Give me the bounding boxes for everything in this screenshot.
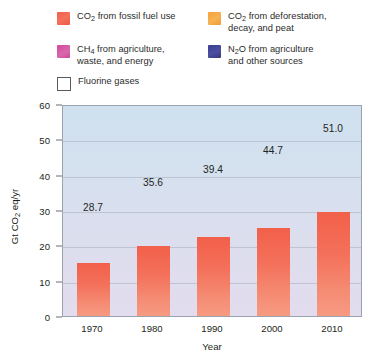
bar-value-label: 44.7 [263, 145, 283, 156]
legend-item-methane: CH4 from agriculture,waste, and energy [57, 44, 165, 67]
chart-legend: CO2 from fossil fuel use CO2 from defore… [0, 0, 379, 96]
x-axis-tick-label: 2000 [261, 323, 282, 334]
bar-value-label: 28.7 [83, 202, 103, 213]
legend-label-nitrous-oxide: N2O from agricultureand other sources [228, 44, 314, 67]
legend-label-fossil-fuel: CO2 from fossil fuel use [77, 11, 176, 23]
y-axis: Gt CO2 eq/yr 0102030405060 [0, 105, 62, 317]
bar-segment-fossil [257, 228, 290, 316]
bar-segment-nitrous [197, 179, 230, 192]
y-axis-tick-label: 30 [39, 206, 50, 217]
bar-value-label: 51.0 [323, 123, 343, 134]
legend-swatch-nitrous-oxide-icon [208, 45, 221, 58]
bar-segment-nitrous [257, 161, 290, 178]
legend-item-fossil-fuel: CO2 from fossil fuel use [57, 11, 176, 25]
bar-1990[interactable] [197, 177, 230, 316]
stacked-bar-chart: Gt CO2 eq/yr 0102030405060 28.735.639.44… [0, 96, 379, 355]
bar-segment-methane [197, 192, 230, 214]
bar-segment-nitrous [77, 217, 110, 226]
legend-label-fluorine-gases: Fluorine gases [78, 76, 139, 88]
bar-segment-fossil [317, 212, 350, 316]
x-axis-title: Year [62, 341, 362, 352]
legend-swatch-fossil-fuel-icon [57, 12, 70, 25]
x-axis: Year 19701980199020002010 [62, 317, 362, 355]
x-axis-tick-label: 1990 [201, 323, 222, 334]
legend-swatch-deforestation-icon [208, 12, 221, 25]
bar-segment-deforest [77, 244, 110, 263]
plot-area: 28.735.639.444.751.0 [62, 105, 362, 317]
bar-segment-methane [137, 208, 170, 230]
bar-segment-fossil [137, 246, 170, 316]
bar-1980[interactable] [137, 190, 170, 316]
bar-segment-deforest [257, 203, 290, 228]
legend-item-deforestation: CO2 from deforestation,decay, and peat [208, 11, 327, 34]
y-axis-tick-label: 0 [45, 312, 50, 323]
legend-label-methane: CH4 from agriculture,waste, and energy [77, 44, 165, 67]
x-axis-tick-label: 1980 [141, 323, 162, 334]
bar-segment-deforest [197, 214, 230, 237]
bar-segment-fossil [197, 237, 230, 317]
x-axis-tick-label: 2010 [321, 323, 342, 334]
legend-swatch-methane-icon [57, 45, 70, 58]
y-axis-tick-label: 10 [39, 276, 50, 287]
legend-item-nitrous-oxide: N2O from agricultureand other sources [208, 44, 314, 67]
bar-segment-nitrous [137, 193, 170, 208]
bar-2010[interactable] [317, 136, 350, 316]
legend-swatch-fluorine-gases-icon [57, 77, 71, 91]
bar-segment-nitrous [317, 139, 350, 153]
bar-segment-methane [77, 226, 110, 244]
bar-1970[interactable] [77, 215, 110, 316]
bar-segment-methane [317, 153, 350, 176]
y-axis-tick-label: 50 [39, 135, 50, 146]
bar-segment-deforest [317, 176, 350, 212]
legend-item-fluorine-gases: Fluorine gases [57, 76, 139, 91]
bar-segment-deforest [137, 230, 170, 246]
y-axis-tick-label: 40 [39, 170, 50, 181]
y-axis-tick-label: 60 [39, 100, 50, 111]
y-axis-tick-label: 20 [39, 241, 50, 252]
bar-value-label: 39.4 [203, 164, 223, 175]
x-axis-tick-label: 1970 [81, 323, 102, 334]
y-axis-title: Gt CO2 eq/yr [9, 157, 20, 277]
legend-label-deforestation: CO2 from deforestation,decay, and peat [228, 11, 327, 34]
bar-2000[interactable] [257, 158, 290, 316]
bar-value-label: 35.6 [143, 177, 163, 188]
bar-segment-fossil [77, 263, 110, 316]
bar-segment-methane [257, 179, 290, 204]
